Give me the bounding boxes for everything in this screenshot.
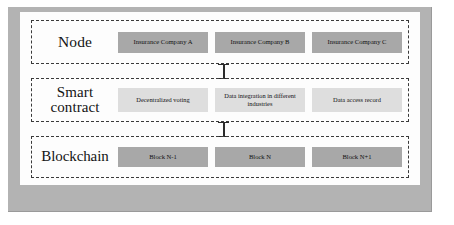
tier-blockchain: Blockchain Block N-1 Block N Block N+1 [31, 136, 409, 178]
node-box-insurance-company-b[interactable]: Insurance Company B [215, 32, 305, 53]
tier-smart-contract-boxes: Decentralized voting Data integration in… [118, 88, 408, 112]
tier-smart-contract-label-line1: Smart [32, 85, 118, 100]
tier-smart-contract: Smart contract Decentralized voting Data… [31, 78, 409, 122]
diagram-panel: Node Insurance Company A Insurance Compa… [20, 12, 420, 185]
tier-smart-contract-label: Smart contract [32, 85, 118, 116]
tier-smart-contract-label-line2: contract [32, 100, 118, 115]
connector-stem [223, 64, 225, 79]
tier-node-label: Node [32, 34, 118, 50]
tier-blockchain-label: Blockchain [32, 149, 118, 164]
tier-blockchain-boxes: Block N-1 Block N Block N+1 [118, 147, 408, 167]
block-box-n-minus-1[interactable]: Block N-1 [118, 147, 208, 167]
figure-frame: Node Insurance Company A Insurance Compa… [8, 7, 432, 212]
tier-node-boxes: Insurance Company A Insurance Company B … [118, 32, 408, 53]
connector-stem [223, 122, 225, 137]
contract-box-data-integration[interactable]: Data integration in different industries [215, 88, 305, 112]
block-box-n[interactable]: Block N [215, 147, 305, 167]
node-box-insurance-company-a[interactable]: Insurance Company A [118, 32, 208, 53]
node-box-insurance-company-c[interactable]: Insurance Company C [312, 32, 402, 53]
contract-box-data-access-record[interactable]: Data access record [312, 88, 402, 112]
contract-box-decentralized-voting[interactable]: Decentralized voting [118, 88, 208, 112]
connector-node-to-smart-contract [218, 64, 229, 79]
connector-smart-contract-to-blockchain [218, 122, 229, 137]
block-box-n-plus-1[interactable]: Block N+1 [312, 147, 402, 167]
tier-node: Node Insurance Company A Insurance Compa… [31, 20, 409, 64]
